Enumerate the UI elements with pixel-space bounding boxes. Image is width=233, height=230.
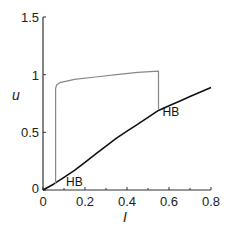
y-tick-label: 1	[32, 68, 39, 83]
x-tick-label: 0.2	[76, 194, 94, 209]
x-tick-label: 0.8	[202, 194, 220, 209]
bifurcation-chart: 00.20.40.60.800.511.5 IuHBHB	[0, 0, 233, 230]
y-tick-label: 0.5	[21, 125, 39, 140]
hb-annotation: HB	[66, 175, 83, 189]
axes: 00.20.40.60.800.511.5	[21, 10, 220, 209]
x-tick-label: 0	[39, 194, 46, 209]
oscillation-amplitude-curve	[56, 71, 159, 184]
x-axis-label: I	[123, 209, 127, 225]
hb-annotation: HB	[163, 105, 180, 119]
series-group	[43, 71, 211, 190]
y-axis-label: u	[12, 87, 20, 103]
y-tick-label: 0	[32, 181, 39, 196]
x-tick-label: 0.4	[118, 194, 136, 209]
x-tick-label: 0.6	[160, 194, 178, 209]
y-tick-label: 1.5	[21, 10, 39, 25]
labels-group: IuHBHB	[12, 87, 179, 225]
